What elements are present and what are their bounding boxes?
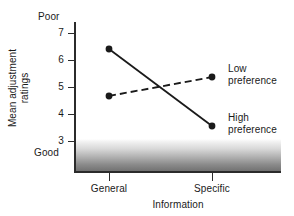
series-high-preference-line — [109, 49, 212, 126]
datapoint-high-specific — [209, 123, 216, 130]
datapoint-low-general — [106, 93, 113, 100]
legend-high-line2: preference — [228, 124, 277, 135]
plot-area — [0, 0, 294, 216]
legend-low-preference: Low preference — [228, 63, 292, 87]
datapoint-high-general — [106, 46, 113, 53]
chart-figure: 7 6 5 4 3 Poor Good Mean adjustment rati… — [0, 0, 294, 216]
legend-low-line1: Low — [228, 63, 247, 74]
legend-low-line2: preference — [228, 75, 277, 86]
legend-high-line1: High — [228, 112, 249, 123]
datapoint-low-specific — [209, 74, 216, 81]
legend-high-preference: High preference — [228, 112, 292, 136]
